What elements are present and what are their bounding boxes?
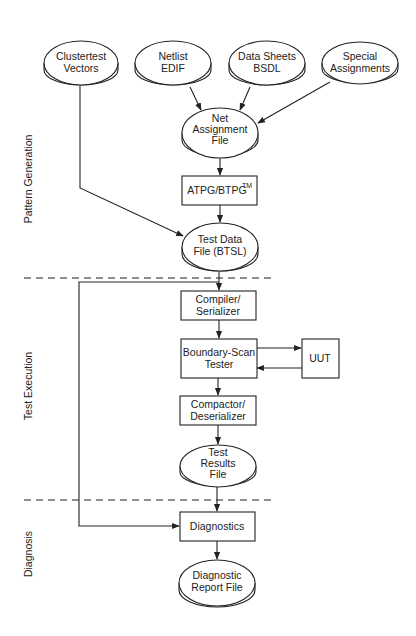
node-label-line: Boundary-Scan bbox=[183, 346, 256, 358]
node-label-line: Assignments bbox=[330, 62, 390, 74]
node-datasheets[interactable]: Data Sheets BSDL bbox=[229, 41, 305, 85]
node-label: Diagnostics bbox=[190, 520, 244, 532]
node-label-line: Vectors bbox=[63, 62, 98, 74]
node-clustertest[interactable]: Clustertest Vectors bbox=[44, 41, 118, 85]
node-label: ATPG/BTPG bbox=[187, 184, 246, 196]
node-report[interactable]: Diagnostic Report File bbox=[179, 560, 255, 607]
node-tester[interactable]: Boundary-Scan Tester bbox=[181, 339, 257, 378]
node-compactor[interactable]: Compactor/ Deserializer bbox=[180, 396, 256, 425]
node-label-line: EDIF bbox=[161, 62, 185, 74]
node-label-line: Test Data bbox=[198, 233, 243, 245]
node-label-line: Special bbox=[343, 50, 377, 62]
node-atpg[interactable]: ATPG/BTPG TM bbox=[182, 176, 257, 205]
node-label-line: File bbox=[212, 134, 229, 146]
node-label-line: Compactor/ bbox=[191, 398, 245, 410]
node-testdata[interactable]: Test Data File (BTSL) bbox=[182, 223, 258, 271]
node-label-line: Clustertest bbox=[56, 50, 106, 62]
edge-netlist-to-netassign bbox=[190, 87, 201, 110]
node-label-line: Netlist bbox=[158, 50, 187, 62]
node-netassign[interactable]: Net Assignment File bbox=[182, 108, 258, 158]
node-label-line: Data Sheets bbox=[238, 50, 296, 62]
edge-clustertest-to-testdata bbox=[80, 86, 183, 236]
node-label-line: Compiler/ bbox=[196, 293, 241, 305]
edge-datasheets-to-netassign bbox=[240, 87, 250, 110]
node-netlist[interactable]: Netlist EDIF bbox=[135, 41, 211, 85]
node-label-line: File bbox=[210, 468, 227, 480]
node-compiler[interactable]: Compiler/ Serializer bbox=[181, 291, 256, 320]
node-special[interactable]: Special Assignments bbox=[322, 42, 398, 84]
phase-label-test-execution: Test Execution bbox=[22, 352, 34, 420]
node-diagnostics[interactable]: Diagnostics bbox=[180, 512, 255, 541]
node-results[interactable]: Test Results File bbox=[180, 445, 256, 487]
node-label-line: Report File bbox=[191, 581, 243, 593]
node-label-line: Serializer bbox=[196, 305, 240, 317]
edge-special-to-netassign bbox=[258, 82, 330, 123]
node-uut[interactable]: UUT bbox=[302, 339, 339, 378]
phase-label-diagnosis: Diagnosis bbox=[22, 531, 34, 577]
flow-diagram: Pattern Generation Test Execution Diagno… bbox=[0, 0, 416, 636]
node-label-line: Deserializer bbox=[190, 410, 246, 422]
phase-label-pattern-generation: Pattern Generation bbox=[22, 134, 34, 223]
node-label-line: Diagnostic bbox=[192, 569, 241, 581]
node-label-line: Tester bbox=[205, 358, 234, 370]
node-label-line: BSDL bbox=[253, 62, 281, 74]
trademark-superscript: TM bbox=[242, 182, 252, 189]
node-label-line: File (BTSL) bbox=[193, 245, 246, 257]
node-label: UUT bbox=[309, 352, 331, 364]
